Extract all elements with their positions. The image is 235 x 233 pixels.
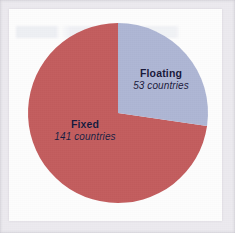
pie-label-floating-value: 53 countries: [123, 80, 199, 91]
pie-chart-figure: Floating 53 countries Fixed 141 countrie…: [0, 0, 235, 233]
pie-label-fixed: Fixed 141 countries: [40, 119, 130, 142]
pie-label-fixed-value: 141 countries: [40, 131, 130, 142]
pie-label-fixed-title: Fixed: [40, 119, 130, 131]
pie-label-floating: Floating 53 countries: [123, 68, 199, 91]
plot-panel: [9, 9, 222, 221]
pie-label-floating-title: Floating: [123, 68, 199, 80]
